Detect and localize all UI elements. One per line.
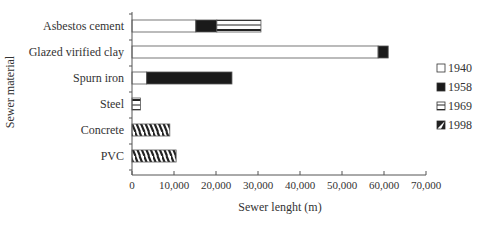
bar-segment [132,20,196,32]
category-label: PVC [101,149,124,163]
category-label: Spurn iron [73,71,124,85]
x-tick-label: 50,000 [327,179,358,191]
category-label: Asbestos cement [43,19,125,33]
x-tick-label: 60,000 [369,179,400,191]
x-tick-label: 40,000 [285,179,316,191]
y-axis-label: Sewer material [3,55,17,128]
x-tick-label: 20,000 [201,179,232,191]
category-label: Steel [100,97,125,111]
legend-swatch [437,83,445,91]
bar-segment [196,20,217,32]
bar-segment [132,72,147,84]
x-tick-label: 0 [129,179,135,191]
category-labels: Asbestos cementGlazed virified claySpurn… [29,19,125,163]
bar-segment [132,46,378,58]
bar-segment [378,46,388,58]
legend-label: 1958 [448,80,472,94]
legend: 1940195819691998 [437,61,472,132]
bars-group [132,20,388,162]
x-tick-labels: 010,00020,00030,00040,00050,00060,00070,… [129,179,441,191]
bar-segment [217,20,261,32]
legend-swatch [437,102,445,110]
x-tick-label: 30,000 [243,179,274,191]
bar-segment [132,150,176,162]
stacked-bar-chart: Asbestos cementGlazed virified claySpurn… [0,0,479,226]
legend-label: 1969 [448,99,472,113]
x-axis-label: Sewer lenght (m) [238,200,321,214]
bar-segment [132,124,170,136]
legend-swatch [437,64,445,72]
legend-label: 1940 [448,61,472,75]
x-tick-label: 10,000 [159,179,190,191]
x-tick-label: 70,000 [411,179,442,191]
legend-label: 1998 [448,118,472,132]
category-label: Concrete [81,123,124,137]
chart-canvas: Asbestos cementGlazed virified claySpurn… [0,0,479,226]
bar-segment [132,98,140,110]
category-label: Glazed virified clay [29,45,124,59]
bar-segment [147,72,232,84]
